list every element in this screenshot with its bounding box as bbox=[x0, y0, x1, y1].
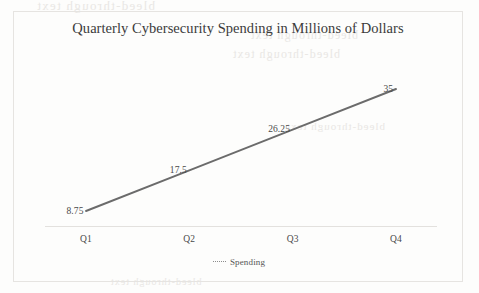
legend-label-spending: Spending bbox=[230, 257, 265, 267]
x-tick-label-q2: Q2 bbox=[167, 234, 211, 244]
chart-legend: Spending bbox=[14, 257, 464, 267]
series-line-spending bbox=[86, 89, 396, 211]
data-label-q4: 35 bbox=[384, 84, 394, 94]
data-label-q1: 8.75 bbox=[67, 206, 84, 216]
data-label-q3: 26.25 bbox=[268, 124, 290, 134]
x-tick-label-q3: Q3 bbox=[271, 234, 315, 244]
chart-container: Quarterly Cybersecurity Spending in Mill… bbox=[13, 11, 463, 282]
x-tick-label-q4: Q4 bbox=[374, 234, 418, 244]
data-label-q2: 17.5 bbox=[170, 165, 187, 175]
x-tick-label-q1: Q1 bbox=[64, 234, 108, 244]
legend-line-marker-icon bbox=[213, 261, 226, 263]
plot-area: 8.75 17.5 26.25 35 Q1 Q2 Q3 Q4 Spending bbox=[14, 12, 464, 283]
